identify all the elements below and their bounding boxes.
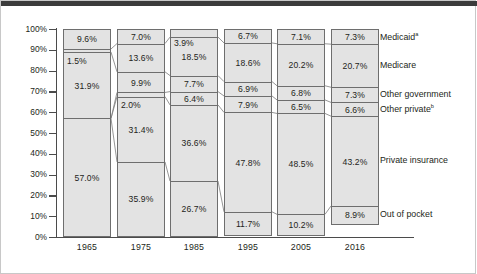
y-axis-tick bbox=[49, 237, 56, 238]
x-axis-label-2016: 2016 bbox=[320, 242, 390, 252]
segment-value-label: 7.7% bbox=[184, 79, 204, 89]
segment-other-government-1975[interactable]: 9.9% bbox=[117, 72, 165, 93]
segment-private-insurance-2005[interactable]: 48.5% bbox=[277, 113, 325, 214]
segment-value-label: 6.8% bbox=[291, 88, 311, 98]
y-axis-tick bbox=[49, 112, 56, 113]
bar-2016[interactable]: 7.3%20.7%7.3%6.6%43.2%8.9% bbox=[331, 29, 379, 237]
legend-footnote-marker: b bbox=[431, 103, 434, 109]
segment-value-label: 6.9% bbox=[238, 84, 258, 94]
y-axis-tick-label: 70% bbox=[7, 86, 47, 96]
segment-value-label: 20.7% bbox=[343, 61, 368, 71]
segment-value-label: 26.7% bbox=[182, 204, 207, 214]
segment-value-label: 43.2% bbox=[343, 157, 368, 167]
segment-value-label: 6.5% bbox=[291, 102, 311, 112]
segment-other-private-1995[interactable]: 7.9% bbox=[224, 96, 272, 112]
bar-1985[interactable]: 3.9%18.5%7.7%6.4%36.6%26.7% bbox=[170, 29, 218, 237]
segment-medicaid-2016[interactable]: 7.3% bbox=[331, 29, 379, 44]
segment-medicaid-1995[interactable]: 6.7% bbox=[224, 29, 272, 43]
segment-medicaid-1985[interactable]: 3.9% bbox=[170, 29, 218, 37]
bar-1975[interactable]: 7.0%13.6%9.9%2.0%31.4%35.9% bbox=[117, 29, 165, 237]
segment-medicare-1995[interactable]: 18.6% bbox=[224, 43, 272, 82]
segment-private-insurance-1985[interactable]: 36.6% bbox=[170, 105, 218, 181]
segment-out-of-pocket-1975[interactable]: 35.9% bbox=[117, 162, 165, 237]
segment-value-label: 6.7% bbox=[238, 31, 258, 41]
segment-value-label: 57.0% bbox=[75, 173, 100, 183]
y-axis-tick bbox=[49, 50, 56, 51]
segment-value-label: 36.6% bbox=[182, 138, 207, 148]
y-axis-tick-label: 0% bbox=[7, 232, 47, 242]
y-axis-tick-label: 80% bbox=[7, 65, 47, 75]
y-axis-tick-label: 30% bbox=[7, 169, 47, 179]
y-axis-tick bbox=[49, 154, 56, 155]
segment-value-label: 13.6% bbox=[129, 53, 154, 63]
top-rule bbox=[1, 1, 477, 6]
segment-out-of-pocket-2005[interactable]: 10.2% bbox=[277, 214, 325, 235]
y-axis-tick-label: 50% bbox=[7, 128, 47, 138]
segment-out-of-pocket-2016[interactable]: 8.9% bbox=[331, 206, 379, 225]
y-axis-tick bbox=[49, 133, 56, 134]
y-axis-tick bbox=[49, 29, 56, 30]
segment-value-label: 7.9% bbox=[238, 100, 258, 110]
y-axis-tick bbox=[49, 175, 56, 176]
segment-out-of-pocket-1965[interactable]: 57.0% bbox=[63, 118, 111, 237]
y-axis-tick bbox=[49, 216, 56, 217]
x-axis-line bbox=[56, 237, 414, 238]
y-axis-tick-label: 60% bbox=[7, 107, 47, 117]
y-axis-tick bbox=[49, 195, 56, 196]
y-axis-tick-label: 90% bbox=[7, 44, 47, 54]
segment-medicaid-1965[interactable]: 9.6% bbox=[63, 29, 111, 49]
segment-other-government-2016[interactable]: 7.3% bbox=[331, 87, 379, 102]
legend-item-medicaid: Medicaida bbox=[380, 31, 418, 42]
segment-value-label: 31.4% bbox=[129, 125, 154, 135]
plot-area: 9.6%1.5%31.9%57.0%7.0%13.6%9.9%2.0%31.4%… bbox=[57, 29, 363, 237]
segment-callout-medicare-1965: 1.5% bbox=[67, 56, 87, 66]
segment-value-label: 9.9% bbox=[131, 78, 151, 88]
segment-other-government-1985[interactable]: 7.7% bbox=[170, 76, 218, 92]
segment-value-label: 7.3% bbox=[345, 32, 365, 42]
y-axis-tick bbox=[49, 91, 56, 92]
y-axis-tick-label: 40% bbox=[7, 148, 47, 158]
segment-medicare-2016[interactable]: 20.7% bbox=[331, 44, 379, 87]
legend-item-out-of-pocket: Out of pocket bbox=[380, 209, 432, 219]
segment-private-insurance-1995[interactable]: 47.8% bbox=[224, 112, 272, 211]
y-axis-tick-label: 20% bbox=[7, 190, 47, 200]
legend-footnote-marker: a bbox=[415, 31, 418, 37]
bar-1995[interactable]: 6.7%18.6%6.9%7.9%47.8%11.7% bbox=[224, 29, 272, 237]
segment-other-government-1995[interactable]: 6.9% bbox=[224, 82, 272, 96]
segment-value-label: 7.0% bbox=[131, 32, 151, 42]
segment-value-label: 35.9% bbox=[129, 194, 154, 204]
segment-value-label: 18.5% bbox=[182, 52, 207, 62]
segment-private-insurance-2016[interactable]: 43.2% bbox=[331, 116, 379, 206]
segment-value-label: 11.7% bbox=[236, 219, 260, 229]
y-axis-tick bbox=[49, 71, 56, 72]
segment-other-private-2016[interactable]: 6.6% bbox=[331, 102, 379, 116]
segment-other-government-2005[interactable]: 6.8% bbox=[277, 86, 325, 100]
segment-value-label: 18.6% bbox=[236, 58, 261, 68]
segment-medicaid-2005[interactable]: 7.1% bbox=[277, 29, 325, 44]
segment-value-label: 7.3% bbox=[345, 90, 365, 100]
segment-out-of-pocket-1985[interactable]: 26.7% bbox=[170, 181, 218, 237]
segment-callout-medicaid-1985: 3.9% bbox=[174, 38, 194, 48]
segment-value-label: 8.9% bbox=[345, 210, 365, 220]
segment-value-label: 48.5% bbox=[289, 159, 314, 169]
segment-other-private-2005[interactable]: 6.5% bbox=[277, 100, 325, 114]
segment-value-label: 6.4% bbox=[184, 94, 204, 104]
segment-value-label: 20.2% bbox=[289, 60, 314, 70]
legend-item-other-private: Other privateb bbox=[380, 103, 434, 114]
y-axis-tick-label: 100% bbox=[7, 24, 47, 34]
bar-2005[interactable]: 7.1%20.2%6.8%6.5%48.5%10.2% bbox=[277, 29, 325, 237]
legend-item-medicare: Medicare bbox=[380, 60, 416, 70]
segment-other-private-1985[interactable]: 6.4% bbox=[170, 92, 218, 105]
segment-value-label: 9.6% bbox=[77, 34, 97, 44]
segment-value-label: 6.6% bbox=[345, 105, 365, 115]
segment-value-label: 7.1% bbox=[291, 32, 311, 42]
segment-out-of-pocket-1995[interactable]: 11.7% bbox=[224, 212, 272, 236]
segment-value-label: 10.2% bbox=[289, 220, 314, 230]
segment-medicare-1975[interactable]: 13.6% bbox=[117, 44, 165, 72]
segment-value-label: 31.9% bbox=[75, 81, 100, 91]
segment-medicaid-1975[interactable]: 7.0% bbox=[117, 29, 165, 44]
legend-item-private-insurance: Private insurance bbox=[380, 155, 448, 165]
legend-item-other-government: Other government bbox=[380, 89, 451, 99]
segment-medicare-2005[interactable]: 20.2% bbox=[277, 44, 325, 86]
